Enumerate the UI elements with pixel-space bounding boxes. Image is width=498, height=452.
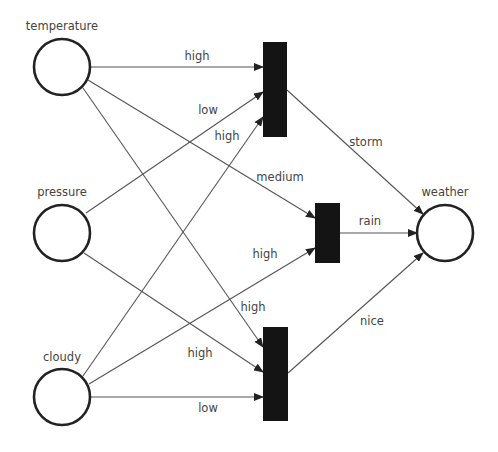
arc-label: high bbox=[240, 300, 265, 314]
node-label-weather: weather bbox=[421, 185, 468, 199]
transitions-layer bbox=[263, 42, 340, 421]
arc-t_nice-to-weather bbox=[288, 253, 423, 373]
node-label-pressure: pressure bbox=[37, 185, 87, 199]
transition-bar-t_storm bbox=[263, 42, 287, 137]
transition-bar-t_rain bbox=[315, 203, 340, 263]
place-node-temperature bbox=[34, 39, 90, 95]
places-layer bbox=[34, 39, 473, 425]
arc-label: low bbox=[198, 401, 218, 415]
petri-net-diagram: highlowhighmediumhighhighhighlowstormrai… bbox=[0, 0, 498, 452]
arc-label: high bbox=[187, 346, 212, 360]
arc-label: low bbox=[198, 103, 218, 117]
arc-t_storm-to-weather bbox=[287, 90, 423, 214]
arc-label: nice bbox=[360, 314, 384, 328]
arc-label: rain bbox=[359, 214, 381, 228]
arc-label: high bbox=[214, 129, 239, 143]
arc-temperature-to-t_nice bbox=[83, 88, 263, 347]
node-label-temperature: temperature bbox=[26, 19, 98, 33]
place-node-cloudy bbox=[34, 369, 90, 425]
node-label-cloudy: cloudy bbox=[43, 350, 81, 364]
edges-layer bbox=[83, 67, 423, 397]
labels-layer: highlowhighmediumhighhighhighlowstormrai… bbox=[26, 19, 469, 415]
transition-bar-t_nice bbox=[263, 327, 288, 421]
arc-cloudy-to-t_storm bbox=[83, 117, 263, 376]
arc-pressure-to-t_storm bbox=[86, 92, 263, 213]
place-node-weather bbox=[417, 205, 473, 261]
arc-label: high bbox=[252, 247, 277, 261]
arc-label: medium bbox=[256, 170, 303, 184]
arc-label: storm bbox=[349, 135, 382, 149]
arc-pressure-to-t_nice bbox=[84, 253, 263, 372]
arc-label: high bbox=[184, 49, 209, 63]
place-node-pressure bbox=[34, 205, 90, 261]
